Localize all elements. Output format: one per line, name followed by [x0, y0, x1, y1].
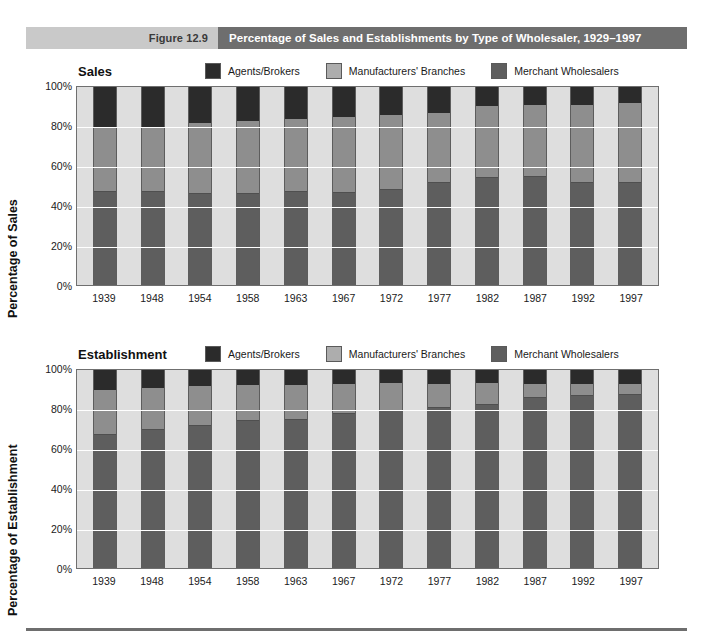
y-tick-label: 40%: [32, 200, 72, 212]
x-tick-label: 1992: [559, 292, 607, 304]
stacked-bar[interactable]: [93, 87, 117, 285]
stacked-bar[interactable]: [236, 87, 260, 285]
legend-item-merchant-wholesalers: Merchant Wholesalers: [491, 63, 618, 79]
stacked-bar[interactable]: [93, 370, 117, 568]
x-tick-label: 1963: [272, 292, 320, 304]
stacked-bar[interactable]: [427, 370, 451, 568]
x-tick-label: 1948: [128, 575, 176, 587]
x-tick-label: 1939: [80, 292, 128, 304]
segment-agents-brokers: [142, 87, 164, 127]
segment-agents-brokers: [380, 87, 402, 115]
x-tick-label: 1987: [511, 575, 559, 587]
footer-rule: [26, 628, 687, 631]
bar-slot: [272, 370, 320, 568]
stacked-bar[interactable]: [141, 87, 165, 285]
stacked-bar[interactable]: [523, 87, 547, 285]
stacked-bar[interactable]: [618, 370, 642, 568]
stacked-bar[interactable]: [618, 87, 642, 285]
segment-agents-brokers: [476, 370, 498, 383]
stacked-bar[interactable]: [427, 87, 451, 285]
segment-manufacturers-branches: [94, 127, 116, 192]
bar-slot: [320, 370, 368, 568]
legend-item-manufacturers-branches: Manufacturers' Branches: [326, 63, 465, 79]
bar-slot: [368, 87, 416, 285]
bar-slot: [415, 370, 463, 568]
stacked-bar[interactable]: [332, 87, 356, 285]
gridline: [77, 207, 658, 208]
y-tick-label: 20%: [32, 240, 72, 252]
segment-merchant-wholesalers: [142, 430, 164, 568]
stacked-bar[interactable]: [570, 370, 594, 568]
bar-slot: [224, 370, 272, 568]
segment-merchant-wholesalers: [619, 395, 641, 568]
segment-manufacturers-branches: [524, 384, 546, 398]
segment-agents-brokers: [380, 370, 402, 383]
stacked-bar[interactable]: [284, 370, 308, 568]
legend-swatch-icon-branches: [326, 346, 342, 362]
figure-title-label: Percentage of Sales and Establishments b…: [229, 32, 641, 44]
stacked-bar[interactable]: [284, 87, 308, 285]
stacked-bar[interactable]: [188, 87, 212, 285]
legend-label-agents: Agents/Brokers: [228, 348, 300, 360]
x-tick-label: 1958: [224, 575, 272, 587]
legend-item-agents-brokers: Agents/Brokers: [205, 346, 300, 362]
gridline: [77, 167, 658, 168]
chart-sales-bars: [77, 87, 658, 285]
y-tick-label: 80%: [32, 120, 72, 132]
bar-slot: [511, 87, 559, 285]
stacked-bar[interactable]: [236, 370, 260, 568]
bar-slot: [224, 87, 272, 285]
segment-merchant-wholesalers: [571, 183, 593, 285]
stacked-bar[interactable]: [570, 87, 594, 285]
bar-slot: [606, 370, 654, 568]
stacked-bar[interactable]: [379, 87, 403, 285]
legend-label-merchant: Merchant Wholesalers: [514, 65, 618, 77]
stacked-bar[interactable]: [141, 370, 165, 568]
segment-agents-brokers: [142, 370, 164, 388]
x-tick-label: 1982: [463, 292, 511, 304]
chart-sales-legend: Agents/Brokers Manufacturers' Branches M…: [205, 60, 645, 82]
bar-slot: [177, 87, 225, 285]
segment-agents-brokers: [333, 87, 355, 117]
chart-establishment-header: Establishment Agents/Brokers Manufacture…: [0, 343, 713, 365]
figure-number-label: Figure 12.9: [149, 32, 208, 44]
stacked-bar[interactable]: [332, 370, 356, 568]
chart-establishment-y-axis-label: Percentage of Establishment: [6, 444, 20, 616]
bar-slot: [463, 370, 511, 568]
segment-manufacturers-branches: [380, 115, 402, 190]
gridline: [77, 127, 658, 128]
figure-number-tab: Figure 12.9: [26, 27, 218, 49]
x-tick-label: 1954: [176, 575, 224, 587]
segment-merchant-wholesalers: [94, 435, 116, 568]
bar-slot: [177, 370, 225, 568]
chart-sales-y-ticks: 100%80%60%40%20%0%: [26, 86, 72, 286]
stacked-bar[interactable]: [475, 87, 499, 285]
segment-merchant-wholesalers: [285, 420, 307, 569]
segment-agents-brokers: [333, 370, 355, 384]
y-tick-label: 80%: [32, 403, 72, 415]
segment-agents-brokers: [428, 370, 450, 384]
chart-establishment-title: Establishment: [78, 347, 167, 362]
x-tick-label: 1967: [320, 292, 368, 304]
segment-manufacturers-branches: [428, 113, 450, 183]
chart-establishment-x-ticks: 1939194819541958196319671972197719821987…: [76, 575, 659, 587]
bar-slot: [129, 370, 177, 568]
bar-slot: [511, 370, 559, 568]
segment-agents-brokers: [476, 87, 498, 106]
stacked-bar[interactable]: [523, 370, 547, 568]
bar-slot: [559, 370, 607, 568]
segment-agents-brokers: [94, 87, 116, 127]
gridline: [77, 410, 658, 411]
segment-manufacturers-branches: [94, 390, 116, 436]
segment-merchant-wholesalers: [237, 421, 259, 568]
stacked-bar[interactable]: [475, 370, 499, 568]
chart-establishment-legend: Agents/Brokers Manufacturers' Branches M…: [205, 343, 645, 365]
legend-label-branches: Manufacturers' Branches: [349, 348, 465, 360]
segment-merchant-wholesalers: [285, 192, 307, 285]
segment-merchant-wholesalers: [476, 405, 498, 568]
segment-agents-brokers: [524, 370, 546, 384]
bar-slot: [272, 87, 320, 285]
legend-swatch-icon-agents: [205, 63, 221, 79]
stacked-bar[interactable]: [188, 370, 212, 568]
stacked-bar[interactable]: [379, 370, 403, 568]
